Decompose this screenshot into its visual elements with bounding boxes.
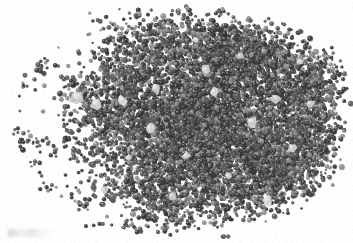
micrograph-figure [0, 0, 353, 243]
particle-mass-image [0, 0, 353, 243]
